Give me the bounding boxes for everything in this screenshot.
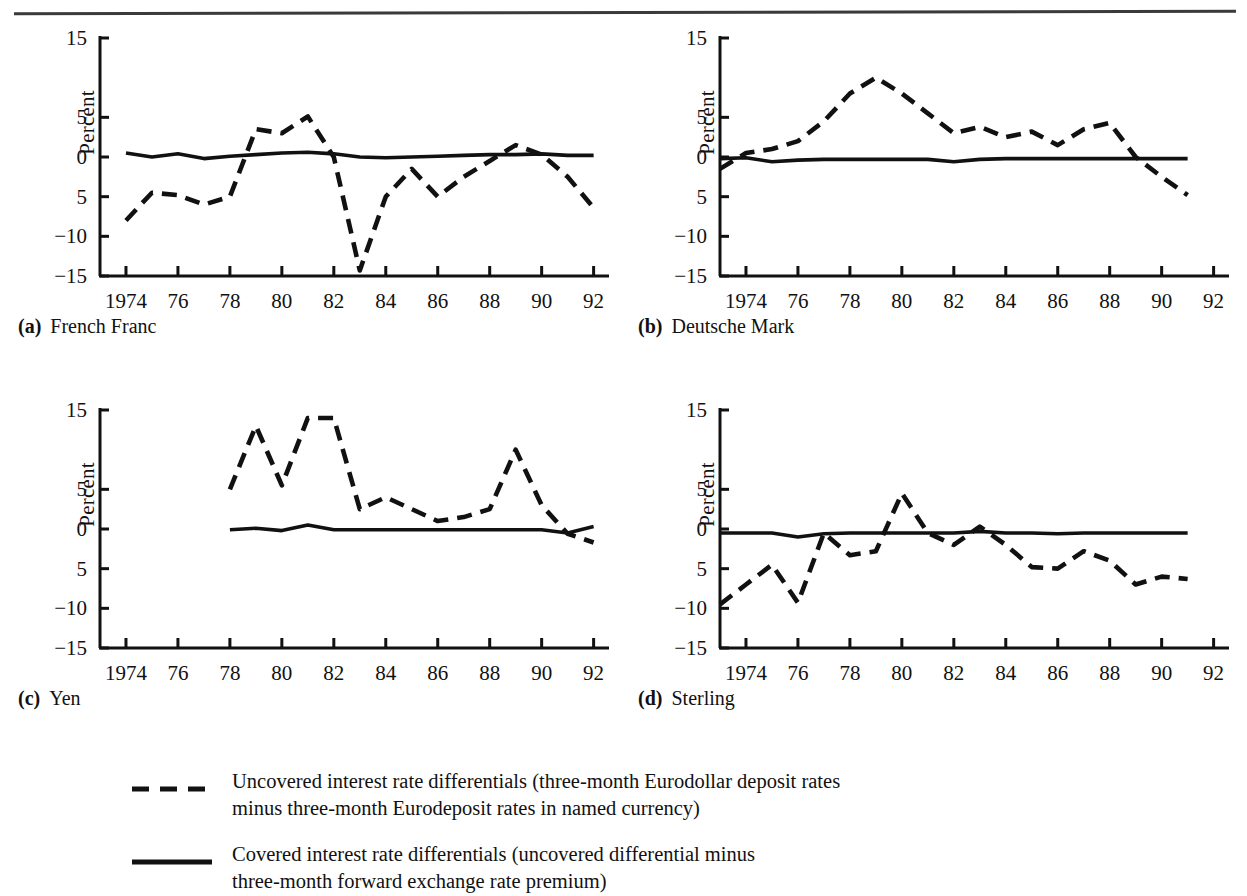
x-tick-label: 1974 <box>725 289 768 313</box>
series-uncovered <box>126 117 594 271</box>
legend-label-covered: Covered interest rate differentials (unc… <box>214 841 755 896</box>
panel-sterling: 15505−10−151974767880828486889092 Percen… <box>624 390 1239 740</box>
legend-key-solid-icon <box>130 841 214 870</box>
panel-deutsche-mark: 15505−10−151974767880828486889092 Percen… <box>624 18 1239 368</box>
panel-french-franc: 15505−10−151974767880828486889092 Percen… <box>4 18 619 368</box>
x-tick-label: 92 <box>583 661 604 685</box>
page-top-rule <box>14 10 1236 16</box>
x-tick-label: 76 <box>787 289 808 313</box>
panel-title-b: Deutsche Mark <box>671 315 794 337</box>
y-tick-label: −10 <box>54 596 87 620</box>
y-tick-label: 15 <box>66 26 87 50</box>
x-tick-label: 1974 <box>725 661 768 685</box>
series-covered <box>126 152 594 158</box>
y-tick-label: −15 <box>674 264 707 288</box>
x-tick-label: 88 <box>1099 289 1120 313</box>
y-tick-label: 15 <box>66 398 87 422</box>
x-tick-label: 80 <box>271 661 292 685</box>
x-tick-label: 1974 <box>105 289 148 313</box>
series-uncovered <box>720 78 1188 195</box>
panel-yen: 15505−10−151974767880828486889092 Percen… <box>4 390 619 740</box>
y-tick-label: −15 <box>54 264 87 288</box>
x-tick-label: 78 <box>839 661 860 685</box>
x-tick-label: 1974 <box>105 661 148 685</box>
panel-caption-a: (a)French Franc <box>18 315 156 338</box>
series-uncovered <box>720 493 1188 604</box>
x-tick-label: 92 <box>583 289 604 313</box>
legend-label-uncovered: Uncovered interest rate differentials (t… <box>214 768 840 823</box>
y-tick-label: 15 <box>686 26 707 50</box>
x-tick-label: 76 <box>787 661 808 685</box>
y-tick-label: −10 <box>674 224 707 248</box>
panel-letter-d: (d) <box>638 687 662 709</box>
x-tick-label: 88 <box>479 661 500 685</box>
x-tick-label: 78 <box>219 661 240 685</box>
panel-caption-b: (b)Deutsche Mark <box>638 315 794 338</box>
y-axis-label-b: Percent <box>695 48 720 198</box>
legend-item-uncovered: Uncovered interest rate differentials (t… <box>130 768 1130 823</box>
x-tick-label: 84 <box>375 289 397 313</box>
x-tick-label: 80 <box>891 289 912 313</box>
panel-letter-c: (c) <box>18 687 40 709</box>
x-tick-label: 86 <box>427 289 448 313</box>
x-tick-label: 90 <box>531 289 552 313</box>
series-covered <box>230 525 594 533</box>
x-tick-label: 84 <box>995 289 1017 313</box>
figure-legend: Uncovered interest rate differentials (t… <box>130 768 1130 896</box>
panel-caption-d: (d)Sterling <box>638 687 735 710</box>
x-tick-label: 80 <box>891 661 912 685</box>
series-covered <box>720 531 1188 537</box>
panel-letter-b: (b) <box>638 315 662 337</box>
panel-title-c: Yen <box>49 687 80 709</box>
series-covered <box>720 158 1188 162</box>
x-tick-label: 82 <box>323 661 344 685</box>
y-axis-label-c: Percent <box>75 420 100 570</box>
series-uncovered <box>230 418 594 543</box>
panel-letter-a: (a) <box>18 315 41 337</box>
x-tick-label: 90 <box>1151 661 1172 685</box>
y-axis-label-a: Percent <box>75 48 100 198</box>
legend-item-covered: Covered interest rate differentials (unc… <box>130 841 1130 896</box>
x-tick-label: 84 <box>375 661 397 685</box>
legend-key-dashed-icon <box>130 768 214 797</box>
x-tick-label: 82 <box>323 289 344 313</box>
y-tick-label: −15 <box>674 636 707 660</box>
x-tick-label: 88 <box>1099 661 1120 685</box>
x-tick-label: 86 <box>1047 661 1068 685</box>
y-axis-label-d: Percent <box>695 420 720 570</box>
x-tick-label: 92 <box>1203 661 1224 685</box>
panel-caption-c: (c)Yen <box>18 687 81 710</box>
panel-title-a: French Franc <box>50 315 156 337</box>
x-tick-label: 86 <box>427 661 448 685</box>
x-tick-label: 78 <box>839 289 860 313</box>
x-tick-label: 76 <box>167 289 188 313</box>
x-tick-label: 90 <box>531 661 552 685</box>
panel-title-d: Sterling <box>671 687 734 709</box>
x-tick-label: 80 <box>271 289 292 313</box>
x-tick-label: 82 <box>943 289 964 313</box>
y-tick-label: −10 <box>674 596 707 620</box>
x-tick-label: 88 <box>479 289 500 313</box>
x-tick-label: 90 <box>1151 289 1172 313</box>
x-tick-label: 84 <box>995 661 1017 685</box>
x-tick-label: 82 <box>943 661 964 685</box>
y-tick-label: −15 <box>54 636 87 660</box>
x-tick-label: 78 <box>219 289 240 313</box>
x-tick-label: 76 <box>167 661 188 685</box>
y-tick-label: 15 <box>686 398 707 422</box>
x-tick-label: 86 <box>1047 289 1068 313</box>
y-tick-label: −10 <box>54 224 87 248</box>
x-tick-label: 92 <box>1203 289 1224 313</box>
